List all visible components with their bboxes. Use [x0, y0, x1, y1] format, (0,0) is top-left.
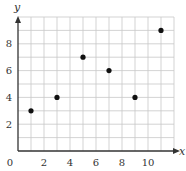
data-point [28, 108, 33, 113]
data-point [132, 95, 137, 100]
y-tick-label: 8 [6, 38, 12, 49]
x-tick-label: 2 [41, 157, 47, 168]
x-tick-label: 8 [119, 157, 125, 168]
data-point [106, 68, 111, 73]
y-tick-label: 4 [6, 92, 12, 103]
y-tick-label: 6 [6, 65, 12, 76]
y-axis-label: y [13, 1, 21, 14]
x-tick-labels: 246810 [41, 157, 155, 168]
axes [15, 16, 180, 154]
y-tick-label: 2 [6, 119, 12, 130]
x-tick-label: 4 [67, 157, 73, 168]
data-point [158, 28, 163, 33]
data-point [54, 95, 59, 100]
origin-label: 0 [7, 157, 13, 168]
scatter-plot: 246810 2468 0 x y [0, 0, 186, 171]
x-tick-label: 6 [93, 157, 99, 168]
grid-lines [18, 17, 174, 151]
y-tick-labels: 2468 [6, 38, 12, 129]
data-point [80, 55, 85, 60]
x-axis-label: x [179, 145, 186, 158]
x-tick-label: 10 [142, 157, 155, 168]
